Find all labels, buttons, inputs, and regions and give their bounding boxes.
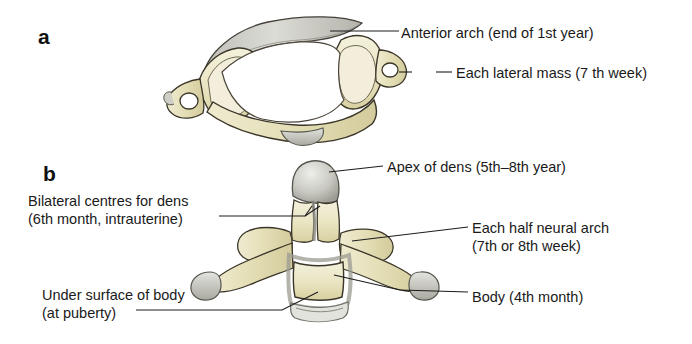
atlas-transverse-foramen-right [382,63,398,77]
label-apex-of-dens: Apex of dens (5th–8th year) [387,158,566,176]
atlas-drawing [164,17,407,146]
axis-body [293,262,343,300]
label-bilateral-centres-line1: Bilateral centres for dens [28,192,188,210]
axis-dens-apex [292,161,339,204]
axis-dens-midline-cartilage [313,202,315,241]
atlas-transverse-foramen-left [180,93,198,109]
label-body: Body (4th month) [472,288,583,306]
label-bilateral-centres-line2: (6th month, intrauterine) [28,210,183,228]
label-each-lateral-mass: Each lateral mass (7 th week) [456,64,647,82]
label-under-surface-line1: Under surface of body [42,286,185,304]
anatomy-figure: a b Anterior arch (end of 1st year) Each… [0,0,692,344]
leader-apex-of-dens [329,166,383,172]
panel-letter-a: a [38,26,50,47]
label-half-neural-arch-line1: Each half neural arch [472,219,609,237]
panel-letter-b: b [43,163,56,184]
axis-transverse-tip-right [409,272,439,300]
label-anterior-arch: Anterior arch (end of 1st year) [401,24,594,42]
axis-dens-centre-left [292,200,314,242]
axis-drawing [191,161,439,322]
axis-transverse-tip-left [191,272,221,300]
label-under-surface-line2: (at puberty) [42,304,116,322]
label-half-neural-arch-line2: (7th or 8th week) [472,237,581,255]
axis-dens-centre-right [317,201,339,242]
